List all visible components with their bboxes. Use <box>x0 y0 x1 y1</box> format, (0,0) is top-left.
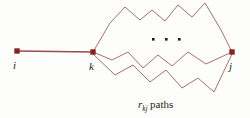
graph-diagram-svg <box>0 0 250 118</box>
path-k-to-j-lower <box>93 54 232 92</box>
ellipsis-dot <box>165 38 168 41</box>
node-label-k: k <box>89 61 94 72</box>
ellipsis-icon <box>152 38 181 41</box>
node-label-j: j <box>229 61 232 72</box>
caption-subscript: kj <box>142 104 147 113</box>
node-label-i: i <box>13 60 16 71</box>
ellipsis-dot <box>152 38 155 41</box>
node-j <box>229 49 234 54</box>
edge-i-to-k <box>17 51 93 52</box>
node-k <box>90 49 95 54</box>
path-k-to-j-middle <box>93 52 232 68</box>
paths-count-caption: rkj paths <box>138 99 173 113</box>
path-k-to-j-upper <box>93 3 232 52</box>
ellipsis-dot <box>178 38 181 41</box>
caption-word: paths <box>150 98 173 110</box>
node-i <box>14 48 19 53</box>
figure-canvas: i k j rkj paths <box>0 0 250 118</box>
